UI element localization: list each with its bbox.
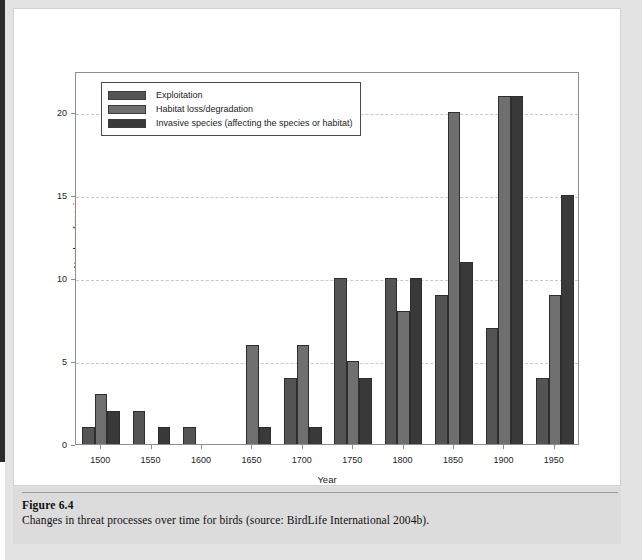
bar	[309, 427, 322, 444]
bar	[460, 262, 473, 444]
legend-item: Habitat loss/degradation	[108, 102, 352, 116]
bar	[95, 394, 108, 444]
bar	[511, 96, 524, 444]
y-tick-label: 20	[33, 108, 67, 118]
figure-caption-text: Changes in threat processes over time fo…	[22, 514, 622, 526]
bar	[107, 411, 120, 444]
chart-legend: ExploitationHabitat loss/degradationInva…	[101, 82, 361, 136]
x-tick-mark	[201, 445, 202, 449]
bar	[297, 345, 310, 444]
y-tick-label: 10	[33, 274, 67, 284]
bar	[334, 278, 347, 444]
bar	[410, 278, 423, 444]
bar	[259, 427, 272, 444]
legend-label: Exploitation	[156, 90, 203, 100]
bar	[486, 328, 499, 444]
x-tick-mark	[302, 445, 303, 449]
x-tick-label: 1600	[177, 455, 225, 465]
figure-caption: Figure 6.4 Changes in threat processes o…	[22, 492, 622, 526]
caption-rule	[22, 492, 618, 493]
bar	[498, 96, 511, 444]
x-tick-label: 1900	[479, 455, 527, 465]
y-tick-label: 15	[33, 191, 67, 201]
x-tick-label: 1700	[278, 455, 326, 465]
legend-item: Exploitation	[108, 88, 352, 102]
bar	[385, 278, 398, 444]
bar	[82, 427, 95, 444]
legend-swatch	[108, 119, 146, 128]
legend-item: Invasive species (affecting the species …	[108, 116, 352, 130]
legend-label: Habitat loss/degradation	[156, 104, 253, 114]
bar	[158, 427, 171, 444]
x-tick-mark	[503, 445, 504, 449]
x-tick-mark	[352, 445, 353, 449]
x-axis-title: Year	[75, 474, 579, 485]
figure-chart: Number of species Year 05101520 15001550…	[13, 8, 621, 486]
figure-number: Figure 6.4	[22, 499, 622, 511]
x-tick-mark	[453, 445, 454, 449]
x-tick-label: 1750	[328, 455, 376, 465]
y-tick-mark	[71, 445, 75, 446]
x-tick-label: 1650	[227, 455, 275, 465]
x-tick-label: 1850	[429, 455, 477, 465]
x-tick-label: 1800	[379, 455, 427, 465]
bar	[359, 378, 372, 444]
y-tick-label: 0	[33, 440, 67, 450]
bar	[561, 195, 574, 444]
bar	[435, 295, 448, 444]
bar	[397, 311, 410, 444]
legend-swatch	[108, 105, 146, 114]
bar	[133, 411, 146, 444]
bar	[536, 378, 549, 444]
legend-label: Invasive species (affecting the species …	[156, 118, 352, 128]
bar	[448, 112, 461, 444]
x-tick-label: 1950	[530, 455, 578, 465]
legend-swatch	[108, 91, 146, 100]
x-tick-label: 1500	[76, 455, 124, 465]
x-tick-mark	[554, 445, 555, 449]
y-tick-label: 5	[33, 357, 67, 367]
bar	[347, 361, 360, 444]
bar	[549, 295, 562, 444]
x-tick-mark	[100, 445, 101, 449]
bar	[284, 378, 297, 444]
x-tick-mark	[403, 445, 404, 449]
bar	[246, 345, 259, 444]
x-tick-mark	[151, 445, 152, 449]
x-tick-mark	[251, 445, 252, 449]
x-tick-label: 1550	[127, 455, 175, 465]
bar	[183, 427, 196, 444]
